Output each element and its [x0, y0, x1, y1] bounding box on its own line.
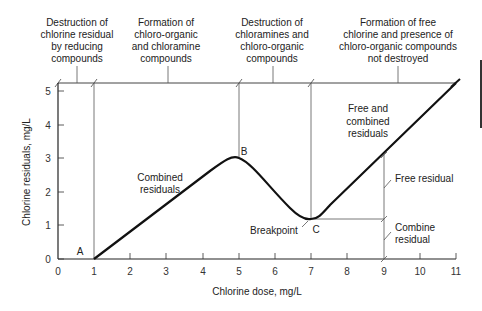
svg-text:Formation of free: Formation of free	[360, 17, 437, 28]
svg-text:Destruction of: Destruction of	[241, 17, 303, 28]
svg-text:2: 2	[127, 266, 133, 277]
svg-text:by reducing: by reducing	[51, 41, 103, 52]
point-b-label: B	[241, 146, 248, 157]
svg-text:6: 6	[272, 266, 278, 277]
svg-text:Combine: Combine	[395, 222, 435, 233]
svg-text:9: 9	[381, 266, 387, 277]
svg-text:2: 2	[45, 187, 51, 198]
svg-text:3: 3	[163, 266, 169, 277]
svg-text:chloro-organic: chloro-organic	[134, 29, 197, 40]
svg-text:1: 1	[91, 266, 97, 277]
svg-text:chloramines and: chloramines and	[235, 29, 308, 40]
svg-text:Destruction of: Destruction of	[46, 17, 108, 28]
svg-text:chloro-organic compounds: chloro-organic compounds	[339, 41, 457, 52]
svg-text:residual: residual	[395, 234, 430, 245]
svg-text:chloro-organic: chloro-organic	[240, 41, 303, 52]
svg-text:11: 11	[451, 266, 462, 277]
y-ticks	[58, 91, 64, 259]
y-tick-labels: 0 1 2 3 4 5	[45, 86, 51, 265]
svg-text:residuals: residuals	[140, 184, 180, 195]
point-c-label: C	[312, 224, 319, 235]
svg-text:and chloramine: and chloramine	[132, 41, 201, 52]
zone-label-3: Destruction of chloramines and chloro-or…	[235, 17, 308, 64]
svg-text:chlorine residual: chlorine residual	[41, 29, 114, 40]
svg-text:4: 4	[45, 120, 51, 131]
zone-label-1: Destruction of chlorine residual by redu…	[41, 17, 114, 64]
svg-text:5: 5	[236, 266, 242, 277]
x-ticks	[130, 253, 456, 259]
svg-text:combined: combined	[346, 116, 389, 127]
svg-text:chlorine and presence of: chlorine and presence of	[343, 29, 453, 40]
svg-text:compounds: compounds	[51, 53, 103, 64]
breakpoint-chlorination-chart: 0 1 2 3 4 5 0 1 2 3 4 5 6 7 8 9 10 11 Ch…	[0, 0, 482, 311]
annotation-combined-residuals: Combined residuals	[137, 172, 183, 195]
annotation-breakpoint: Breakpoint	[250, 225, 298, 236]
svg-text:5: 5	[45, 86, 51, 97]
annotation-free-and-combined: Free and combined residuals	[346, 103, 389, 139]
annotation-combine-residual: Combine residual	[395, 222, 435, 245]
svg-text:1: 1	[45, 220, 51, 231]
svg-text:7: 7	[308, 266, 314, 277]
svg-text:compounds: compounds	[246, 53, 298, 64]
svg-text:residuals: residuals	[348, 128, 388, 139]
annotation-free-residual: Free residual	[395, 173, 453, 184]
svg-text:4: 4	[200, 266, 206, 277]
svg-text:3: 3	[45, 153, 51, 164]
svg-text:0: 0	[55, 266, 61, 277]
svg-text:0: 0	[45, 254, 51, 265]
svg-text:compounds: compounds	[140, 53, 192, 64]
zone-label-2: Formation of chloro-organic and chlorami…	[132, 17, 201, 64]
svg-text:10: 10	[414, 266, 426, 277]
x-axis-label: Chlorine dose, mg/L	[212, 286, 302, 297]
zone-label-4: Formation of free chlorine and presence …	[339, 17, 457, 64]
bracket-marks	[302, 152, 391, 262]
svg-text:Combined: Combined	[137, 172, 183, 183]
svg-text:Formation of: Formation of	[138, 17, 194, 28]
svg-text:not destroyed: not destroyed	[368, 53, 429, 64]
svg-text:Free and: Free and	[348, 103, 388, 114]
point-a-label: A	[77, 246, 84, 257]
svg-text:8: 8	[344, 266, 350, 277]
x-tick-labels: 0 1 2 3 4 5 6 7 8 9 10 11	[55, 266, 461, 277]
y-axis-label: Chlorine residuals, mg/L	[21, 118, 32, 226]
